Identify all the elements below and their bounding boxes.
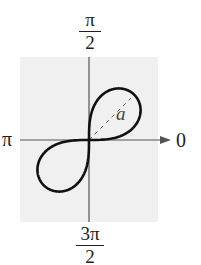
label-top-denominator: 2 xyxy=(85,33,95,53)
label-3pi-over-2: 3π 2 xyxy=(76,224,104,265)
label-pi: π xyxy=(2,129,12,149)
label-pi-over-2: π 2 xyxy=(79,10,101,53)
label-zero: 0 xyxy=(176,130,186,150)
label-top-numerator: π xyxy=(85,10,95,30)
label-bottom-denominator: 2 xyxy=(85,247,95,265)
label-a: a xyxy=(116,104,126,123)
label-bottom-numerator: 3π xyxy=(80,224,99,244)
arrow-icon xyxy=(160,136,171,144)
